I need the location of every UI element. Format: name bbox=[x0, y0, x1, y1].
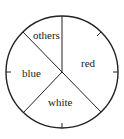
slice-label-others: others bbox=[33, 29, 60, 41]
slice-label-red: red bbox=[81, 57, 96, 69]
slice-label-blue: blue bbox=[22, 67, 41, 79]
pie-chart: others red blue white bbox=[0, 0, 124, 139]
slice-label-white: white bbox=[48, 96, 73, 108]
